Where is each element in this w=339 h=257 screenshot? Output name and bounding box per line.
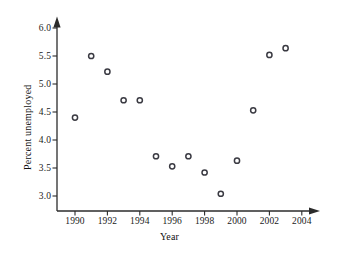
x-tick-label: 1996	[162, 216, 181, 226]
data-point-marker	[186, 154, 191, 159]
data-point-marker	[170, 164, 175, 169]
y-axis-arrow-icon	[53, 17, 60, 28]
x-tick-label: 1998	[195, 216, 214, 226]
y-tick-label: 3.0	[26, 191, 51, 201]
x-tick-label: 2000	[227, 216, 246, 226]
data-point-marker	[121, 98, 126, 103]
x-axis-arrow-icon	[309, 207, 320, 214]
data-point-markers	[72, 46, 288, 197]
data-point-marker	[89, 53, 94, 58]
data-point-marker	[153, 154, 158, 159]
x-tick-label: 1994	[130, 216, 149, 226]
x-tick-label: 1990	[65, 216, 84, 226]
data-point-marker	[202, 170, 207, 175]
data-point-marker	[72, 115, 77, 120]
y-axis-title: Percent unemployed	[22, 84, 33, 170]
data-point-marker	[283, 46, 288, 51]
unemployment-scatter-chart: 3.03.54.04.55.05.56.0 199019921994199619…	[0, 0, 339, 257]
data-point-marker	[251, 108, 256, 113]
plot-area: 3.03.54.04.55.05.56.0 199019921994199619…	[0, 0, 339, 257]
data-point-marker	[267, 52, 272, 57]
x-tick-label: 2002	[260, 216, 279, 226]
x-tick-label: 2004	[292, 216, 311, 226]
x-axis-title: Year	[0, 231, 339, 242]
data-point-marker	[137, 98, 142, 103]
data-point-marker	[234, 158, 239, 163]
axes-group	[53, 17, 320, 215]
data-point-marker	[218, 191, 223, 196]
y-tick-label: 6.0	[26, 23, 51, 33]
y-tick-label: 5.5	[26, 51, 51, 61]
x-tick-label: 1992	[98, 216, 117, 226]
data-point-marker	[105, 69, 110, 74]
